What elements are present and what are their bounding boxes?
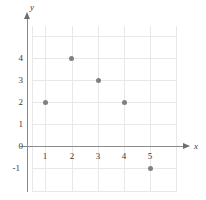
y-axis-arrow-icon: [24, 12, 30, 19]
gridline-vertical: [32, 26, 33, 192]
x-axis-arrow-icon: [183, 143, 190, 149]
data-point: [96, 78, 101, 83]
gridline-vertical: [72, 26, 73, 192]
x-tick-label: 4: [117, 152, 131, 161]
scatter-plot: y x 1 2 3 4 5 4 3 2 1 0 -1: [0, 0, 206, 200]
x-tick-label: 3: [91, 152, 105, 161]
y-tick-label: 4: [9, 54, 23, 63]
y-tick-label: 2: [9, 98, 23, 107]
gridline-horizontal: [32, 102, 176, 103]
x-axis-line: [20, 146, 184, 147]
y-tick-label: 1: [9, 120, 23, 129]
gridline-horizontal: [32, 124, 176, 125]
data-point: [122, 100, 127, 105]
gridline-vertical: [124, 26, 125, 192]
y-axis-label: y: [30, 3, 34, 12]
gridline-vertical: [176, 26, 177, 192]
x-tick-label: 1: [38, 152, 52, 161]
data-point: [43, 100, 48, 105]
data-point: [69, 56, 74, 61]
x-tick-label: 5: [143, 152, 157, 161]
gridline-horizontal: [32, 191, 176, 192]
gridline-vertical: [45, 26, 46, 192]
gridline-horizontal: [32, 168, 176, 169]
grid: [0, 0, 206, 200]
x-axis-label: x: [194, 142, 198, 151]
y-tick-label: 3: [9, 76, 23, 85]
y-tick-label: 0: [9, 142, 23, 151]
y-tick-label: -1: [6, 164, 20, 173]
gridline-horizontal: [32, 36, 176, 37]
gridline-horizontal: [32, 80, 176, 81]
gridline-vertical: [98, 26, 99, 192]
gridline-horizontal: [32, 58, 176, 59]
data-point: [148, 166, 153, 171]
x-tick-label: 2: [65, 152, 79, 161]
y-axis-line: [27, 18, 28, 192]
